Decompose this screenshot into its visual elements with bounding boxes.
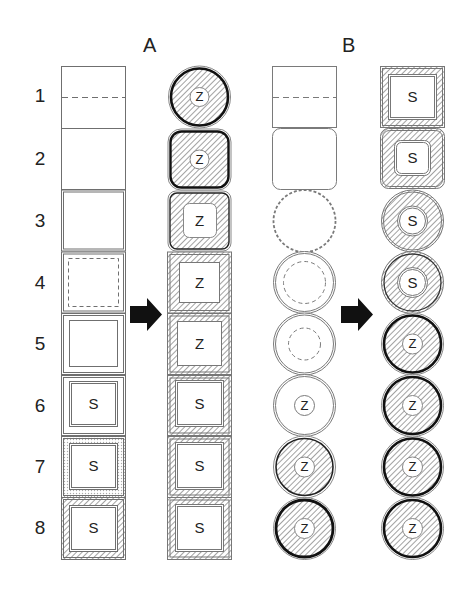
b-before-row-4 (274, 252, 336, 314)
a-before-label-7: S (84, 456, 104, 476)
panel-a-after-column (168, 66, 232, 560)
b-after-label-5: Z (403, 334, 423, 354)
right-arrow-icon-b (341, 298, 373, 331)
a-before-row-1 (62, 67, 126, 129)
panel-b-before-column (273, 67, 337, 560)
b-before-label-6: Z (295, 396, 315, 416)
a-before-label-8: S (84, 518, 104, 538)
a-after-label-6: S (190, 394, 210, 414)
a-after-label-7: S (190, 456, 210, 476)
panel-a-before-column (62, 67, 126, 560)
a-after-label-8: S (190, 518, 210, 538)
b-before-row-1 (273, 67, 337, 128)
b-before-row-3 (274, 190, 336, 252)
a-before-row-5 (62, 314, 126, 375)
b-after-label-6: Z (403, 396, 423, 416)
b-after-label-3: S (403, 211, 423, 231)
b-after-label-8: Z (403, 519, 423, 539)
a-after-label-4: Z (190, 273, 210, 293)
b-after-label-4: S (403, 273, 423, 293)
right-arrow-icon-a (130, 298, 162, 331)
b-before-label-8: Z (295, 519, 315, 539)
b-after-label-7: Z (403, 457, 423, 477)
b-after-label-1: S (403, 87, 423, 107)
a-before-row-2 (62, 129, 126, 190)
b-before-row-5 (274, 313, 336, 375)
b-after-label-2: S (403, 148, 423, 168)
a-after-label-2: Z (190, 150, 210, 170)
figure: A B 1 2 3 4 5 6 7 8 (0, 0, 474, 590)
a-before-row-3 (62, 190, 126, 251)
a-after-label-5: Z (190, 334, 210, 354)
a-after-label-3: Z (190, 211, 210, 231)
panel-b-after-column (381, 67, 445, 560)
a-after-label-1: Z (190, 87, 210, 107)
b-before-label-7: Z (295, 457, 315, 477)
a-before-label-6: S (84, 394, 104, 414)
b-before-row-2 (273, 129, 337, 190)
a-before-row-4 (62, 252, 126, 313)
